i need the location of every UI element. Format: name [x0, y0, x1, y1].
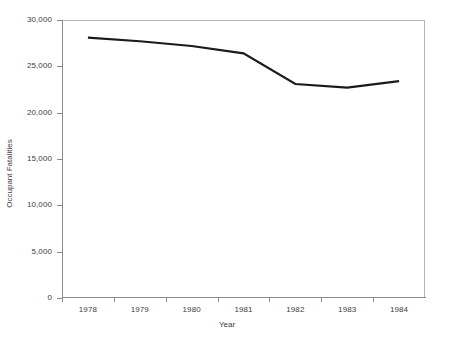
y-axis-tick-label: 15,000	[27, 155, 52, 163]
x-axis-tick-label: 1981	[219, 305, 269, 314]
x-axis-tick	[62, 297, 63, 302]
x-axis-tick	[218, 297, 219, 302]
x-axis-title-label: Year	[219, 320, 235, 329]
x-axis-tick	[114, 297, 115, 302]
y-axis-tick-label: 10,000	[27, 201, 52, 209]
plot-area	[62, 20, 425, 298]
x-axis-tick-label: 1984	[374, 305, 424, 314]
x-axis-tick	[269, 297, 270, 302]
y-axis-tick-label: 20,000	[27, 109, 52, 117]
y-axis-tick	[57, 205, 63, 206]
y-axis-tick	[57, 113, 63, 114]
x-axis-tick-label: 1983	[322, 305, 372, 314]
x-axis-tick	[321, 297, 322, 302]
x-axis-tick	[373, 297, 374, 302]
y-axis-tick	[57, 252, 63, 253]
x-axis-tick-label: 1982	[270, 305, 320, 314]
y-axis-tick-label: 25,000	[27, 62, 52, 70]
x-axis-tick	[166, 297, 167, 302]
x-axis-tick-label: 1980	[167, 305, 217, 314]
x-axis-tick-label: 1978	[63, 305, 113, 314]
y-axis-tick-label: 30,000	[27, 16, 52, 24]
y-axis-tick-label: 0	[47, 294, 52, 302]
y-axis-tick	[57, 159, 63, 160]
y-axis-title: Occupant Fatalities	[2, 0, 16, 346]
x-axis-title: Year	[0, 320, 454, 329]
line-chart: 05,00010,00015,00020,00025,00030,000 197…	[0, 0, 454, 346]
y-axis-title-label: Occupant Fatalities	[5, 139, 14, 207]
x-axis-tick-label: 1979	[115, 305, 165, 314]
y-axis-tick	[57, 20, 63, 21]
y-axis-tick	[57, 66, 63, 67]
y-axis-tick-label: 5,000	[31, 248, 52, 256]
x-axis-line	[62, 297, 426, 298]
